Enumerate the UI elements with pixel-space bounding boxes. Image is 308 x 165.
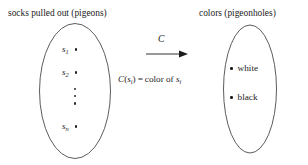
- mapping-arrow-group: C: [144, 34, 192, 60]
- right-element-black-label: black: [238, 92, 258, 102]
- mapping-formula: C(si)=color of si: [118, 75, 181, 84]
- vertical-ellipsis-icon: [74, 88, 78, 106]
- formula-equals: =: [136, 74, 145, 84]
- left-element-s1-subscript: 1: [66, 48, 69, 55]
- right-element-white-label: white: [238, 63, 258, 73]
- formula-argument-subscript: i: [131, 78, 133, 85]
- left-set-caption: socks pulled out (pigeons): [8, 9, 107, 18]
- formula-result-symbol: s: [176, 74, 180, 84]
- right-arrow-icon: [144, 48, 192, 60]
- left-element-s1: s1: [62, 45, 77, 54]
- bullet-icon: [75, 71, 78, 74]
- bullet-icon: [75, 48, 78, 51]
- left-element-sn-subscript: n: [66, 125, 69, 132]
- right-element-white: white: [230, 64, 258, 73]
- bullet-icon: [230, 67, 233, 70]
- right-set-caption: colors (pigeonholes): [199, 9, 276, 18]
- left-element-s2: s2: [62, 68, 77, 77]
- formula-result-subscript: i: [180, 78, 182, 85]
- bullet-icon: [230, 96, 233, 99]
- left-element-sn: sn: [62, 122, 77, 131]
- pigeonhole-diagram: socks pulled out (pigeons) colors (pigeo…: [0, 0, 308, 165]
- right-element-black: black: [230, 93, 258, 102]
- bullet-icon: [75, 125, 78, 128]
- left-element-s2-subscript: 2: [66, 71, 69, 78]
- formula-result-text: color of: [145, 74, 174, 84]
- right-set-ellipse: [208, 24, 292, 158]
- mapping-arrow-label: C: [158, 34, 164, 44]
